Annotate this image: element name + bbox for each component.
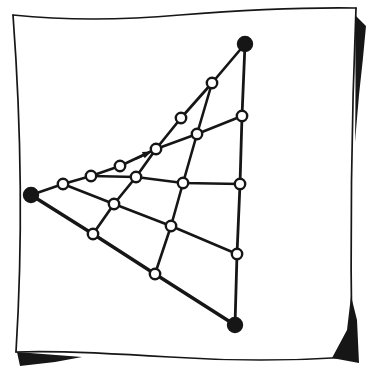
net-point-l — [109, 199, 119, 209]
base-point-bottom — [228, 318, 242, 332]
net-point-g — [86, 171, 96, 181]
net-point-c — [176, 113, 186, 123]
net-point-f — [115, 161, 125, 171]
net-point-b — [237, 111, 247, 121]
net-point-n — [88, 229, 98, 239]
net-point-j — [178, 178, 188, 188]
frame-left-edge — [13, 15, 20, 352]
shadow-right-bottom — [332, 296, 359, 363]
net-line-horizontal-cross — [91, 176, 240, 184]
net-line-bottom-edge — [31, 195, 235, 325]
frame-top-edge — [13, 8, 356, 19]
base-point-top — [238, 37, 252, 51]
net-point-d — [192, 129, 202, 139]
net-point-m — [166, 221, 176, 231]
net-point-a — [207, 78, 217, 88]
net-point-p — [150, 269, 160, 279]
net-point-o — [232, 249, 242, 259]
net-point-i — [131, 172, 141, 182]
projective-net-figure — [0, 0, 372, 381]
net-point-h — [58, 179, 68, 189]
net-line-mid-cross — [63, 184, 237, 254]
base-point-left — [24, 188, 38, 202]
net-point-k — [235, 179, 245, 189]
net-point-e — [151, 144, 161, 154]
shadow-bottom-left — [17, 352, 82, 366]
shadow-right-top — [355, 15, 366, 142]
scanned-figure-page — [0, 0, 372, 381]
